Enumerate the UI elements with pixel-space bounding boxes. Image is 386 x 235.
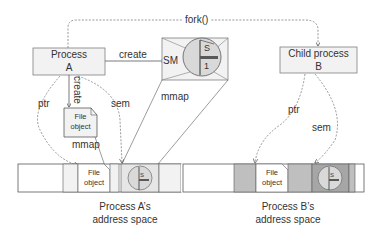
as-b-file-line1: File <box>256 168 288 178</box>
as-b-file-line2: object <box>256 178 288 188</box>
process-a-line2: A <box>33 61 105 74</box>
file-object-label: File object <box>64 112 97 132</box>
create-file-label: create <box>72 76 83 104</box>
file-object-line2: object <box>64 122 97 132</box>
ptr-b-label: ptr <box>288 104 300 115</box>
as-b-line1: Process B’s <box>253 200 323 213</box>
file-object-line1: File <box>64 112 97 122</box>
sm-label: SM <box>163 55 178 66</box>
address-space-a-file-label: File object <box>78 168 110 188</box>
create-sm-label: create <box>119 49 147 60</box>
as-b-line2: address space <box>253 213 323 226</box>
process-a-label: Process A <box>33 48 105 74</box>
sm-glyph-1: 1 <box>204 61 209 72</box>
fork-label: fork() <box>183 14 210 25</box>
ptr-a-label: ptr <box>38 98 50 109</box>
sm-glyph-s: S <box>204 43 210 54</box>
sem-a-label: sem <box>111 98 130 109</box>
sem-b-edge <box>315 74 338 163</box>
mmap-file-label: mmap <box>72 139 100 150</box>
sem-b-label: sem <box>312 122 331 133</box>
as-a-glyph: S <box>140 170 144 181</box>
shared-memory-fork-diagram <box>0 0 386 235</box>
address-space-b-label: Process B’s address space <box>253 200 323 226</box>
mmap-sm-label: mmap <box>161 91 189 102</box>
address-space-b-file-label: File object <box>256 168 288 188</box>
child-process-line2: B <box>280 60 357 73</box>
ptr-b-edge <box>255 74 305 163</box>
address-space-bar <box>18 164 364 192</box>
process-a-line1: Process <box>33 48 105 61</box>
child-process-line1: Child process <box>280 47 357 60</box>
address-space-a-label: Process A’s address space <box>90 200 160 226</box>
mmap-sm-edge-left <box>122 80 162 164</box>
as-a-file-line2: object <box>78 178 110 188</box>
as-a-line2: address space <box>90 213 160 226</box>
as-b-glyph: S <box>330 170 334 181</box>
as-a-file-line1: File <box>78 168 110 178</box>
as-a-line1: Process A’s <box>90 200 160 213</box>
child-process-label: Child process B <box>280 47 357 73</box>
